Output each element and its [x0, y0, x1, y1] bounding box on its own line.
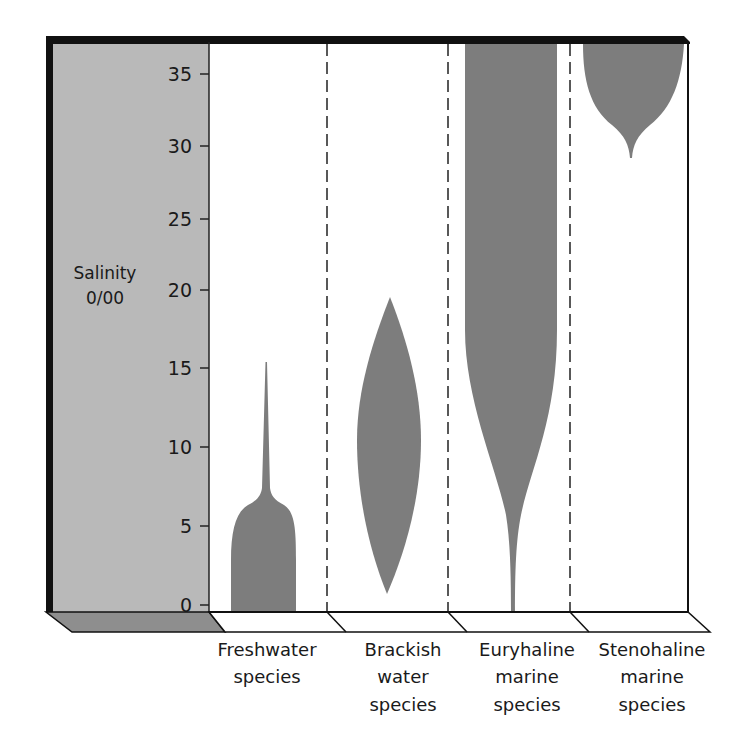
- category-label-line: water: [377, 666, 429, 687]
- floor-white: [209, 612, 710, 632]
- category-label-line: Freshwater: [217, 639, 317, 660]
- chart-floor: [46, 612, 710, 632]
- category-label-line: species: [493, 694, 560, 715]
- axis-panel-left-edge: [46, 36, 53, 612]
- y-axis-unit: 0/00: [86, 288, 124, 308]
- category-label-line: species: [369, 694, 436, 715]
- tick-label: 0: [180, 594, 192, 616]
- category-stenohaline: Stenohaline marine species: [599, 639, 706, 715]
- floor-gray: [46, 612, 225, 632]
- category-freshwater: Freshwater species: [217, 639, 317, 687]
- top-frame: [46, 36, 690, 44]
- tick-label: 10: [168, 436, 192, 458]
- category-label-line: species: [233, 666, 300, 687]
- category-labels: Freshwater species Brackish water specie…: [217, 639, 705, 715]
- tick-label: 35: [168, 63, 192, 85]
- category-label-line: marine: [495, 666, 558, 687]
- tick-label: 15: [168, 357, 192, 379]
- category-label-line: Euryhaline: [479, 639, 575, 660]
- tick-label: 20: [168, 279, 192, 301]
- salinity-tolerance-chart: 0 5 10 15 20 25 30 35 Salinity 0/00 Fres…: [0, 0, 755, 754]
- category-brackish: Brackish water species: [365, 639, 442, 715]
- tick-label: 30: [168, 135, 192, 157]
- category-label-line: species: [618, 694, 685, 715]
- category-label-line: Stenohaline: [599, 639, 706, 660]
- y-axis-title: Salinity: [74, 263, 137, 283]
- tick-label: 25: [168, 208, 192, 230]
- category-label-line: Brackish: [365, 639, 442, 660]
- category-euryhaline: Euryhaline marine species: [479, 639, 575, 715]
- category-label-line: marine: [620, 666, 683, 687]
- tick-label: 5: [180, 515, 192, 537]
